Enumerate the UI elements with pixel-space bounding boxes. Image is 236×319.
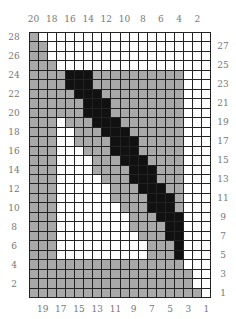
grid-cell xyxy=(184,270,193,279)
grid-cell xyxy=(30,61,39,70)
grid-cell xyxy=(93,222,102,231)
grid-cell xyxy=(184,203,193,212)
grid-cell xyxy=(157,166,166,175)
grid-cell xyxy=(202,71,211,80)
grid-cell xyxy=(130,128,139,137)
grid-cell xyxy=(39,289,48,298)
grid-cell xyxy=(48,232,57,241)
grid-cell xyxy=(66,203,75,212)
grid-cell xyxy=(175,194,184,203)
grid-cell xyxy=(139,241,148,250)
grid-cell xyxy=(130,270,139,279)
grid-cell xyxy=(30,118,39,127)
right-row-label: 1 xyxy=(220,289,226,298)
grid-cell xyxy=(166,279,175,288)
grid-cell xyxy=(111,90,120,99)
grid-cell xyxy=(93,241,102,250)
grid-cell xyxy=(57,251,66,260)
grid-cell xyxy=(157,289,166,298)
grid-cell xyxy=(66,270,75,279)
grid-cell xyxy=(193,289,202,298)
grid-cell xyxy=(111,61,120,70)
grid-cell xyxy=(66,33,75,42)
grid-cell xyxy=(84,241,93,250)
grid-cell xyxy=(75,118,84,127)
grid-cell xyxy=(121,166,130,175)
grid-cell xyxy=(30,213,39,222)
grid-cell xyxy=(102,156,111,165)
grid-cell xyxy=(121,260,130,269)
grid-cell xyxy=(39,109,48,118)
grid-cell xyxy=(175,137,184,146)
grid-cell xyxy=(202,137,211,146)
grid-cell xyxy=(148,80,157,89)
grid-cell xyxy=(202,99,211,108)
grid-cell xyxy=(130,166,139,175)
right-row-label: 15 xyxy=(217,156,228,165)
grid-cell xyxy=(121,118,130,127)
grid-cell xyxy=(130,203,139,212)
grid-cell xyxy=(66,137,75,146)
grid-cell xyxy=(130,260,139,269)
grid-cell xyxy=(193,184,202,193)
grid-cell xyxy=(166,52,175,61)
grid-cell xyxy=(66,90,75,99)
grid-cell xyxy=(130,90,139,99)
grid-cell xyxy=(84,118,93,127)
grid-cell xyxy=(84,90,93,99)
grid-cell xyxy=(48,241,57,250)
grid-cell xyxy=(111,118,120,127)
left-row-label: 6 xyxy=(11,241,17,250)
grid-cell xyxy=(202,90,211,99)
grid-cell xyxy=(184,137,193,146)
grid-cell xyxy=(39,270,48,279)
grid-cell xyxy=(148,232,157,241)
grid-cell xyxy=(166,147,175,156)
grid-cell xyxy=(184,61,193,70)
grid-cell xyxy=(102,260,111,269)
grid-cell xyxy=(111,147,120,156)
grid-cell xyxy=(193,33,202,42)
grid-cell xyxy=(102,90,111,99)
grid-cell xyxy=(157,147,166,156)
grid-cell xyxy=(157,270,166,279)
grid-cell xyxy=(184,241,193,250)
grid-cell xyxy=(130,184,139,193)
grid-cell xyxy=(93,71,102,80)
grid-cell xyxy=(175,33,184,42)
bottom-column-label: 5 xyxy=(167,305,173,314)
grid-cell xyxy=(157,156,166,165)
top-column-label: 14 xyxy=(82,15,93,24)
grid-cell xyxy=(175,52,184,61)
left-row-label: 14 xyxy=(8,165,19,174)
grid-cell xyxy=(75,147,84,156)
grid-cell xyxy=(202,33,211,42)
grid-cell xyxy=(48,251,57,260)
grid-cell xyxy=(75,251,84,260)
bottom-column-label: 3 xyxy=(185,305,191,314)
grid-cell xyxy=(121,232,130,241)
right-row-label: 7 xyxy=(220,232,226,241)
grid-cell xyxy=(175,80,184,89)
grid-cell xyxy=(84,260,93,269)
grid-cell xyxy=(175,128,184,137)
grid-cell xyxy=(139,147,148,156)
grid-cell xyxy=(30,270,39,279)
grid-cell xyxy=(111,241,120,250)
bottom-column-label: 13 xyxy=(92,305,103,314)
grid-cell xyxy=(102,118,111,127)
grid-cell xyxy=(166,156,175,165)
grid-cell xyxy=(84,61,93,70)
grid-cell xyxy=(84,156,93,165)
grid-cell xyxy=(111,156,120,165)
grid-cell xyxy=(121,42,130,51)
grid-cell xyxy=(193,270,202,279)
grid-cell xyxy=(157,90,166,99)
grid-cell xyxy=(157,203,166,212)
grid-cell xyxy=(175,203,184,212)
grid-cell xyxy=(166,194,175,203)
grid-cell xyxy=(130,222,139,231)
grid-cell xyxy=(193,61,202,70)
grid-cell xyxy=(30,109,39,118)
grid-cell xyxy=(102,166,111,175)
